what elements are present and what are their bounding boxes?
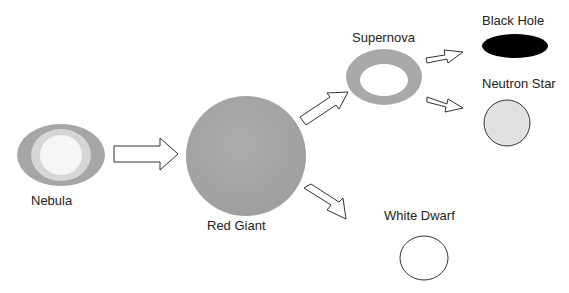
label-red-giant: Red Giant [207, 218, 266, 233]
neutron-star-shape [484, 100, 530, 146]
label-supernova: Supernova [352, 30, 415, 45]
nebula-shape [17, 124, 105, 186]
diagram-canvas [0, 0, 569, 293]
label-nebula: Nebula [31, 193, 72, 208]
label-white-dwarf: White Dwarf [384, 208, 455, 223]
arrow-supernova-to-black-hole [426, 50, 463, 63]
arrow-supernova-to-neutron-star [427, 97, 463, 112]
arrow-red-giant-to-white-dwarf [304, 184, 346, 219]
red-giant-shape [186, 96, 306, 216]
label-black-hole: Black Hole [482, 13, 544, 28]
nebula-inner [40, 135, 82, 175]
black-hole-shape [482, 34, 548, 58]
white-dwarf-shape [400, 236, 448, 280]
arrow-nebula-to-red-giant [114, 138, 178, 170]
supernova-shape [346, 49, 422, 105]
arrow-red-giant-to-supernova [300, 92, 348, 125]
label-neutron-star: Neutron Star [482, 76, 556, 91]
